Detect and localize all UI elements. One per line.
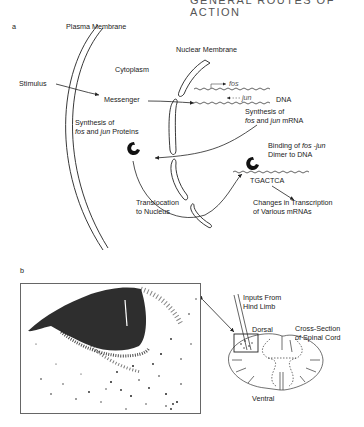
protein-synthesis-label: Synthesis of fos and jun Proteins	[75, 119, 139, 136]
translocation-label: Translocation to Nucleus	[136, 199, 179, 216]
magnification-arrow	[203, 300, 234, 332]
messenger-label: Messenger	[104, 96, 140, 105]
messenger-arrow	[148, 101, 194, 103]
protein-blob-cytoplasm	[127, 142, 140, 155]
nuclear-membrane-label: Nuclear Membrane	[176, 46, 237, 55]
transcription-changes-label: Changes in Transcription of Various mRNA…	[253, 199, 333, 216]
stimulus-arrow	[56, 84, 99, 95]
inputs-line2: Hind Limb	[243, 303, 281, 312]
translocation-line2: to Nucleus	[136, 208, 179, 217]
plasma-membrane-label: Plasma Membrane	[66, 23, 126, 32]
protein-synthesis-line2: fos and jun Proteins	[75, 128, 139, 137]
mrna-synthesis-line2: fos and jun mRNA	[245, 117, 303, 126]
dimer-blob-nucleus	[246, 157, 259, 170]
stimulus-label: Stimulus	[19, 80, 47, 89]
photomicrograph-dorsal-horn	[20, 283, 201, 414]
binding-line2: Dimer to DNA	[268, 151, 326, 160]
spinal-cord-cross-section	[228, 334, 323, 390]
fos-gene-label: fos	[229, 80, 239, 89]
panel-a-label: a	[12, 23, 16, 32]
plasma-membrane-arc	[66, 25, 108, 250]
fos-transcription-arrow	[211, 84, 226, 88]
dna-strands	[194, 88, 270, 104]
mrna-export-arrow	[155, 125, 257, 158]
cross-section-line2: of Spinal Cord	[295, 334, 341, 343]
dorsal-horn-highlight-box	[234, 334, 258, 352]
binding-label: Binding of fos -jun Dimer to DNA	[268, 142, 326, 159]
dna-label: DNA	[276, 96, 291, 105]
ventral-label: Ventral	[252, 395, 274, 404]
hind-limb-inputs-label: Inputs From Hind Limb	[243, 294, 281, 311]
jun-gene-label: jun	[242, 94, 252, 103]
cytoplasm-label: Cytoplasm	[115, 66, 149, 75]
changes-line2: of Various mRNAs	[253, 208, 333, 217]
binding-dna-strand	[233, 171, 309, 173]
labeled-cells-stipple	[21, 284, 201, 414]
cross-section-label: Cross-Section of Spinal Cord	[295, 325, 341, 342]
consensus-sequence-label: TGACTCA	[250, 177, 284, 186]
panel-b-label: b	[20, 267, 24, 276]
dorsal-label: Dorsal	[252, 326, 273, 335]
mrna-synthesis-label: Synthesis of fos and jun mRNA	[245, 108, 303, 125]
